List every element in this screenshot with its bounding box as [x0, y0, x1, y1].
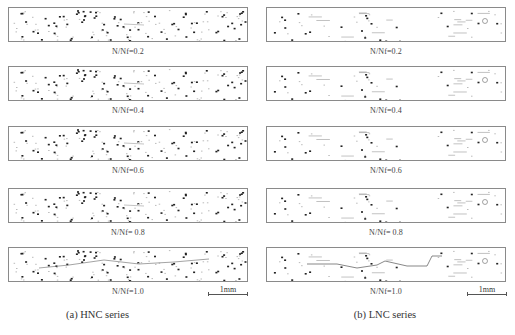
lnc-label-0-2: N/Nf=0.2 [266, 47, 506, 56]
hnc-panel-0-6 [8, 126, 248, 161]
hnc-label-0-4: N/Nf=0.4 [8, 106, 248, 115]
lnc-label-0-4: N/Nf=0.4 [266, 106, 506, 115]
hnc-label-0-8: N/Nf= 0.8 [8, 228, 248, 237]
hnc-caption: (a) HNC series [0, 309, 195, 320]
hnc-panel-0-8 [8, 188, 248, 223]
lnc-panel-1-0 [266, 247, 506, 282]
lnc-panel-0-6 [266, 126, 506, 161]
hnc-panel-1-0 [8, 247, 248, 282]
hnc-scale-bar: 1mm [208, 286, 248, 296]
lnc-label-0-8: N/Nf= 0.8 [266, 228, 506, 237]
hnc-panel-0-4 [8, 66, 248, 101]
hnc-label-0-2: N/Nf=0.2 [8, 47, 248, 56]
lnc-panel-0-8 [266, 188, 506, 223]
lnc-caption: (b) LNC series [285, 309, 485, 320]
lnc-label-0-6: N/Nf=0.6 [266, 166, 506, 175]
hnc-label-0-6: N/Nf=0.6 [8, 166, 248, 175]
lnc-panel-0-4 [266, 66, 506, 101]
hnc-panel-0-2 [8, 7, 248, 42]
lnc-scale-bar: 1mm [467, 286, 507, 296]
lnc-panel-0-2 [266, 7, 506, 42]
